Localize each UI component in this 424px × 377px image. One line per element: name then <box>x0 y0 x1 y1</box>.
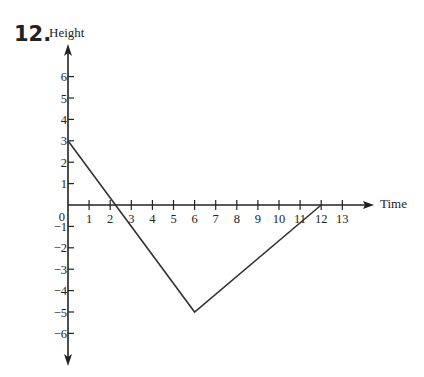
x-tick-label: 6 <box>191 212 197 226</box>
y-tick-label: −6 <box>54 327 67 341</box>
x-tick-label: 8 <box>234 212 240 226</box>
x-tick-label: 12 <box>315 212 328 226</box>
x-tick-label: 7 <box>213 212 219 226</box>
y-tick-label: −2 <box>54 241 67 255</box>
x-tick-label: 10 <box>273 212 286 226</box>
line-chart: 12345678910111213−6−5−4−3−2−11234560 <box>0 0 424 377</box>
y-tick-label: 4 <box>61 113 68 127</box>
y-tick-label: 5 <box>61 92 67 106</box>
y-tick-label: −5 <box>54 306 67 320</box>
y-tick-label: 3 <box>61 134 67 148</box>
y-tick-label: 2 <box>61 156 67 170</box>
x-tick-label: 9 <box>255 212 261 226</box>
x-tick-label: 1 <box>86 212 92 226</box>
y-tick-label: 6 <box>61 70 67 84</box>
x-tick-label: 5 <box>170 212 176 226</box>
origin-label: 0 <box>59 210 65 224</box>
y-tick-label: 1 <box>61 177 67 191</box>
data-series <box>68 141 321 312</box>
y-tick-label: −3 <box>54 263 67 277</box>
x-tick-label: 2 <box>107 212 113 226</box>
y-tick-label: −4 <box>54 284 68 298</box>
x-tick-label: 13 <box>336 212 349 226</box>
x-tick-label: 4 <box>149 212 156 226</box>
height-line <box>68 141 321 312</box>
